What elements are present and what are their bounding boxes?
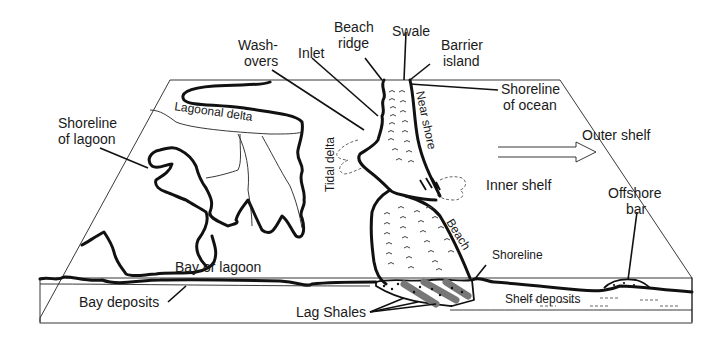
label-inner-shelf: Inner shelf	[486, 177, 551, 193]
label-offshore-bar-2: bar	[626, 201, 647, 217]
lagoonal-delta-channels	[150, 110, 302, 228]
label-beach-ridge-2: ridge	[338, 35, 369, 51]
label-tidal-delta: Tidal delta	[323, 137, 337, 192]
label-shoreline: Shoreline	[492, 248, 543, 262]
label-shoreline-lagoon: Shoreline	[58, 115, 117, 131]
label-outer-shelf: Outer shelf	[582, 127, 651, 143]
label-shoreline-ocean: Shoreline	[501, 81, 560, 97]
label-swale: Swale	[392, 23, 430, 39]
barrier-island	[359, 80, 470, 284]
label-shoreline-ocean-2: of ocean	[503, 97, 557, 113]
lag-wedge	[376, 279, 474, 306]
label-bay-deposits: Bay deposits	[79, 294, 159, 310]
label-shoreline-lagoon-2: of lagoon	[58, 131, 116, 147]
barrier-island-diagram: Wash- overs Inlet Beach ridge Swale Barr…	[0, 0, 713, 345]
label-beach-ridge: Beach	[334, 19, 374, 35]
label-beach: Beach	[443, 216, 473, 252]
label-shelf-deposits: Shelf deposits	[505, 292, 580, 306]
label-washovers: Wash-	[238, 37, 278, 53]
label-bay-or-lagoon: Bay or lagoon	[175, 259, 261, 275]
label-barrier-island: Barrier	[441, 37, 483, 53]
label-lagoonal-delta: Lagoonal delta	[174, 99, 254, 124]
tidal-delta	[337, 140, 466, 200]
label-barrier-island-2: island	[443, 53, 480, 69]
block-outline	[40, 80, 692, 323]
label-washovers-2: overs	[244, 53, 278, 69]
label-lag-shales: Lag Shales	[296, 304, 366, 320]
outer-shelf-arrow	[498, 142, 596, 162]
label-offshore-bar: Offshore	[608, 185, 662, 201]
label-inlet: Inlet	[298, 45, 325, 61]
